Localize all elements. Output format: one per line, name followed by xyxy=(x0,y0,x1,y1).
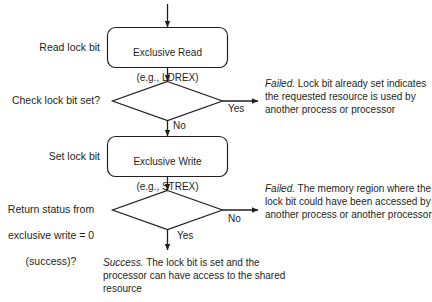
node-return-status xyxy=(113,191,223,230)
annotation-success: Success. The lock bit is set and the pro… xyxy=(103,256,288,296)
annotation-success-lead: Success. xyxy=(103,257,144,268)
flowchart-page: Exclusive Read (e.g., LDREX) Exclusive W… xyxy=(0,0,432,302)
annotation-failed-lock-set: Failed. Lock bit already set indicates t… xyxy=(265,77,430,117)
edge-label-status-yes: Yes xyxy=(177,230,193,242)
edge-label-check-no: No xyxy=(173,120,186,132)
node-exclusive-read-label: Exclusive Read (e.g., LDREX) xyxy=(107,34,228,84)
side-label-check-lock-bit-set: Check lock bit set? xyxy=(0,94,100,107)
side-label-set-lock-bit: Set lock bit xyxy=(0,150,100,163)
node-exclusive-read-line1: Exclusive Read xyxy=(133,47,202,58)
side-label-read-lock-bit: Read lock bit xyxy=(0,41,100,54)
annotation-failed-memory-region-lead: Failed. xyxy=(265,183,295,194)
node-exclusive-write-line2: (e.g., STREX) xyxy=(136,181,198,192)
node-check-lock-bit-set xyxy=(113,82,223,121)
edge-label-status-no: No xyxy=(228,213,241,225)
annotation-failed-lock-set-lead: Failed. xyxy=(265,78,295,89)
side-label-return-status-line1: Return status from xyxy=(8,203,94,215)
side-label-return-status: Return status from exclusive write = 0 (… xyxy=(0,190,102,268)
side-label-return-status-line2: exclusive write = 0 xyxy=(8,229,94,241)
node-exclusive-write-label: Exclusive Write (e.g., STREX) xyxy=(107,143,228,193)
side-label-return-status-line3: (success)? xyxy=(26,255,77,267)
node-exclusive-write-line1: Exclusive Write xyxy=(133,156,201,167)
annotation-failed-memory-region: Failed. The memory region where the lock… xyxy=(265,182,432,222)
node-exclusive-read-line2: (e.g., LDREX) xyxy=(136,72,198,83)
edge-label-check-yes: Yes xyxy=(228,103,244,115)
